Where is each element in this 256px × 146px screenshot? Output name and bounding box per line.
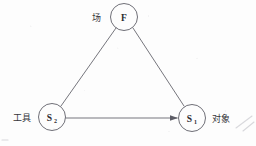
edge-field-to-tool	[61, 28, 116, 106]
arrowhead-icon	[170, 115, 178, 121]
su-field-diagram: F 场 S 2 工具 S 1 对象	[0, 0, 256, 146]
node-tool[interactable]: S 2 工具	[13, 104, 66, 131]
node-object-symbol: S	[187, 114, 192, 124]
node-object[interactable]: S 1 对象	[179, 105, 231, 132]
diagram-canvas: F 场 S 2 工具 S 1 对象	[0, 0, 256, 146]
node-tool-symbol: S	[47, 113, 52, 123]
node-tool-side-label: 工具	[13, 113, 31, 123]
node-field-side-label: 场	[92, 13, 101, 23]
node-tool-subscript: 2	[54, 118, 57, 124]
edge-field-to-object	[133, 28, 184, 106]
edge-group	[61, 28, 184, 121]
node-field-symbol: F	[121, 13, 127, 23]
node-object-subscript: 1	[194, 119, 197, 125]
scan-streak-secondary-icon	[243, 122, 254, 131]
node-field[interactable]: F 场	[92, 4, 138, 31]
node-object-side-label: 对象	[212, 113, 230, 124]
